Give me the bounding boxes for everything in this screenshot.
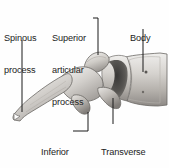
leader-line-superior xyxy=(93,18,98,55)
label-transverse-process: Transverse process xyxy=(101,126,146,168)
label-body-line1: Body xyxy=(130,33,151,44)
label-superior-articular-process: Superior articular process xyxy=(52,12,86,118)
label-spinous-process-line1: Spinous xyxy=(4,33,37,44)
label-spinous-process: Spinous process xyxy=(4,12,37,86)
label-superior-articular-process-line3: process xyxy=(52,97,86,108)
label-spinous-process-line2: process xyxy=(4,65,37,76)
label-superior-articular-process-line2: articular xyxy=(52,65,86,76)
nutrient-foramen xyxy=(142,91,144,93)
label-body: Body xyxy=(130,12,151,54)
label-superior-articular-process-line1: Superior xyxy=(52,33,86,44)
nutrient-foramen xyxy=(145,71,148,74)
label-transverse-process-line1: Transverse xyxy=(101,147,146,158)
label-inferior-articular-process: Inferior articular process xyxy=(41,126,73,168)
label-inferior-articular-process-line1: Inferior xyxy=(41,147,73,158)
